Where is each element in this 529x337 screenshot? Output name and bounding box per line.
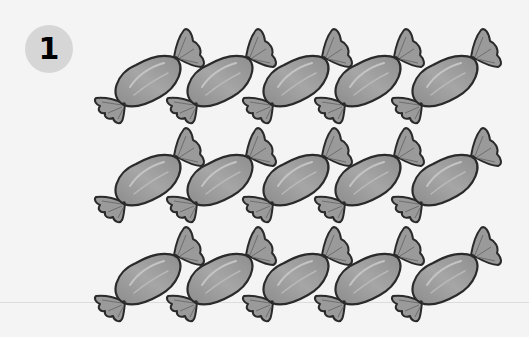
candy-grid: [0, 0, 529, 337]
